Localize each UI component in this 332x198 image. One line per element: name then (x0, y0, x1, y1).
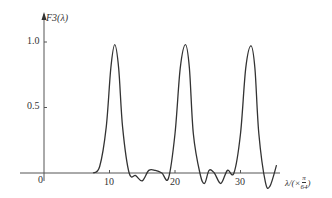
x-label-num: π (302, 174, 306, 183)
y-tick-0.5: 0.5 (27, 100, 40, 111)
x-tick-10: 10 (104, 176, 114, 187)
x-label-suffix: ) (307, 178, 310, 188)
origin-label: 0 (38, 174, 43, 185)
x-tick-30: 30 (235, 176, 245, 187)
x-axis-label: λ/(× π 64 ) (285, 174, 310, 191)
chart-canvas (0, 0, 332, 198)
x-tick-20: 20 (170, 176, 180, 187)
series-line (93, 45, 276, 189)
axes (20, 12, 280, 181)
y-axis-label: F3(λ) (46, 12, 68, 23)
y-tick-1.0: 1.0 (27, 35, 40, 46)
x-label-prefix: λ/(× (285, 178, 300, 188)
